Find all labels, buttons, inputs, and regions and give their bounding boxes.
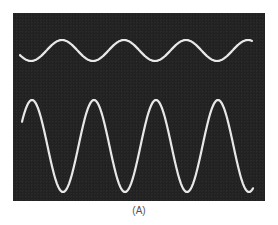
figure-caption: (A) — [0, 205, 278, 216]
oscilloscope-figure: (A) — [0, 0, 278, 225]
upper-waveform-trace — [20, 40, 252, 61]
waveform-plot — [13, 13, 265, 201]
lower-waveform-trace — [22, 100, 253, 192]
oscilloscope-screen — [13, 13, 265, 201]
